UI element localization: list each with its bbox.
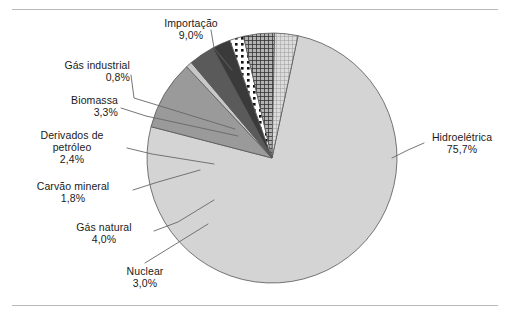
callout-gas-natural-value: 4,0% [58, 233, 150, 245]
callout-gas-industrial: Gás industrial 0,8% [24, 59, 130, 83]
callout-gas-natural-name: Gás natural [58, 221, 150, 233]
callout-gas-industrial-value: 0,8% [24, 71, 130, 83]
callout-derivados-name2: petróleo [24, 141, 120, 153]
callout-importacao-value: 9,0% [133, 29, 249, 41]
callout-derivados-petroleo: Derivados de petróleo 2,4% [24, 129, 120, 166]
callout-importacao: Importação 9,0% [133, 17, 249, 41]
callout-derivados-value: 2,4% [24, 153, 120, 165]
callout-importacao-name: Importação [133, 17, 249, 29]
callout-carvao-name: Carvão mineral [18, 180, 128, 192]
callout-gas-natural: Gás natural 4,0% [58, 221, 150, 245]
callout-biomassa: Biomassa 3,3% [24, 94, 118, 118]
callout-hidroeletrica-value: 75,7% [425, 143, 499, 155]
callout-biomassa-value: 3,3% [24, 106, 118, 118]
callout-carvao-value: 1,8% [18, 192, 128, 204]
callout-carvao-mineral: Carvão mineral 1,8% [18, 180, 128, 204]
callout-hidroeletrica: Hidroelétrica 75,7% [425, 131, 499, 155]
pie-chart-figure: Importação 9,0% Gás industrial 0,8% Biom… [0, 0, 510, 320]
callout-biomassa-name: Biomassa [24, 94, 118, 106]
pie-slices-group [147, 33, 397, 283]
callout-nuclear-name: Nuclear [112, 265, 178, 277]
callout-nuclear: Nuclear 3,0% [112, 265, 178, 289]
callout-gas-industrial-name: Gás industrial [24, 59, 130, 71]
callout-derivados-name: Derivados de [24, 129, 120, 141]
callout-hidroeletrica-name: Hidroelétrica [425, 131, 499, 143]
callout-nuclear-value: 3,0% [112, 277, 178, 289]
